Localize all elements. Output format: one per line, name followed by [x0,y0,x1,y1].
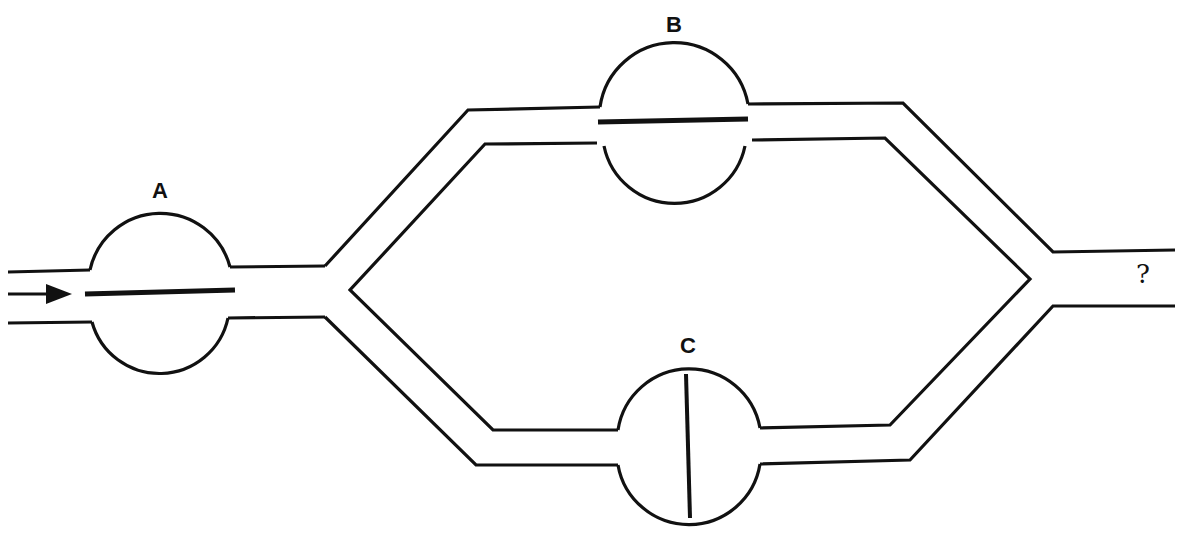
flow-diagram [0,0,1179,533]
upper-branch-inner-wall-right [752,138,1030,428]
chamber-c [618,369,760,525]
pipe-after-a [228,266,325,318]
upper-branch-inner-wall [350,143,618,430]
chamber-a [85,213,235,373]
membrane-a [85,290,235,294]
arrow-right-icon [8,284,72,304]
membrane-c [686,374,690,518]
label-c: C [680,333,696,359]
outlet-question-mark: ? [1136,259,1150,289]
label-b: B [666,12,682,38]
upper-branch-outer-wall-right [748,103,1175,252]
upper-branch-outer-wall [325,107,600,266]
lower-branch-outer-wall [325,317,618,465]
chamber-b [598,43,748,204]
membrane-b [598,119,748,122]
lower-branch-outer-wall-right [760,306,1175,464]
label-a: A [152,178,168,204]
